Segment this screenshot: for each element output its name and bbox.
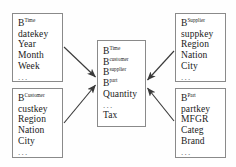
customer-field-2: Nation xyxy=(18,125,59,136)
dimension-box-time[interactable]: BTime datekey Year Month Week ... xyxy=(12,13,63,82)
time-field-3: Week xyxy=(18,61,59,72)
fact-ref-part-superscript: part xyxy=(109,77,117,83)
dimension-box-part[interactable]: BPart partkey MFGR Categ Brand ... xyxy=(175,88,226,158)
time-field-1: Year xyxy=(18,39,59,50)
part-field-2: Categ xyxy=(181,125,222,136)
time-field-0: datekey xyxy=(18,29,59,40)
arrow-time-to-fact xyxy=(64,47,96,77)
time-header: BTime xyxy=(18,18,59,29)
part-ellipsis: ... xyxy=(181,146,222,157)
arrow-part-to-fact xyxy=(148,88,175,121)
customer-field-3: City xyxy=(18,136,59,147)
arrow-customer-to-fact xyxy=(64,85,96,123)
supplier-header-superscript: Supplier xyxy=(187,17,205,23)
fact-measure-quantity: Quantity xyxy=(103,89,142,100)
fact-ref-time-superscript: Time xyxy=(109,45,120,51)
supplier-field-0: suppkey xyxy=(181,29,222,40)
supplier-field-2: Nation xyxy=(181,50,222,61)
fact-table-box[interactable]: BTime Bcustomer Bsupplier Bpart Quantity… xyxy=(97,40,146,127)
schema-diagram: BTime datekey Year Month Week ... BCusto… xyxy=(0,0,236,167)
part-field-0: partkey xyxy=(181,104,222,115)
supplier-ellipsis: ... xyxy=(181,71,222,82)
supplier-field-1: Region xyxy=(181,39,222,50)
dimension-box-customer[interactable]: BCustomer custkey Region Nation City ... xyxy=(12,88,63,158)
dimension-box-supplier[interactable]: BSupplier suppkey Region Nation City ... xyxy=(175,13,226,82)
fact-measure-tax: Tax xyxy=(103,110,142,121)
time-header-superscript: Time xyxy=(24,17,35,23)
fact-ref-customer-superscript: customer xyxy=(109,55,128,61)
customer-header: BCustomer xyxy=(18,93,59,104)
customer-field-0: custkey xyxy=(18,104,59,115)
part-header: BPart xyxy=(181,93,222,104)
supplier-field-3: City xyxy=(181,61,222,72)
fact-ellipsis: ... xyxy=(103,99,142,110)
fact-ref-part: Bpart xyxy=(103,78,142,89)
customer-field-1: Region xyxy=(18,114,59,125)
fact-ref-supplier-superscript: supplier xyxy=(109,66,126,72)
customer-ellipsis: ... xyxy=(18,146,59,157)
part-field-1: MFGR xyxy=(181,114,222,125)
part-header-superscript: Part xyxy=(187,92,195,98)
time-ellipsis: ... xyxy=(18,71,59,82)
arrow-supplier-to-fact xyxy=(148,51,175,80)
supplier-header: BSupplier xyxy=(181,18,222,29)
part-field-3: Brand xyxy=(181,136,222,147)
customer-header-superscript: Customer xyxy=(24,92,44,98)
time-field-2: Month xyxy=(18,50,59,61)
